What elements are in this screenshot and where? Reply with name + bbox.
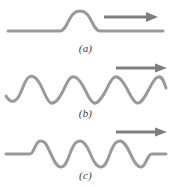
panel-c-graphic: [0, 126, 171, 170]
panel-a-graphic: [0, 0, 171, 40]
arrow-head: [155, 128, 167, 137]
panel-a-single-pulse: [0, 0, 171, 40]
panel-label-a: (a): [0, 43, 171, 54]
panel-c-wave-train: [0, 126, 171, 170]
panel-b-continuous-wave: [0, 62, 171, 106]
sine-waveform: [6, 76, 166, 103]
panel-label-c: (c): [0, 170, 171, 181]
direction-arrow-b: [116, 64, 167, 73]
wave-train-waveform: [6, 141, 166, 167]
arrow-head: [146, 12, 158, 22]
panel-b-graphic: [0, 62, 171, 106]
arrow-head: [155, 64, 167, 73]
pulse-waveform: [8, 11, 163, 31]
direction-arrow-a: [104, 12, 158, 22]
direction-arrow-c: [116, 128, 167, 137]
panel-label-b: (b): [0, 108, 171, 119]
wave-figure: (a) (b) (c): [0, 0, 171, 187]
